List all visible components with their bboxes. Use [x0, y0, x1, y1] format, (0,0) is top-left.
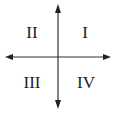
right-arrow-icon [103, 54, 111, 60]
left-arrow-icon [5, 54, 13, 60]
quadrant-4-label: IV [77, 74, 95, 91]
up-arrow-icon [55, 4, 61, 13]
axes [0, 0, 116, 113]
quadrant-2-label: II [26, 24, 37, 41]
quadrant-diagram: I II III IV [0, 0, 116, 113]
quadrant-3-label: III [24, 74, 41, 91]
down-arrow-icon [55, 100, 61, 109]
quadrant-1-label: I [82, 24, 88, 41]
